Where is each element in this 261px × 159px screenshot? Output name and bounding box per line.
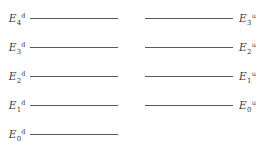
level-symbol: E [9,70,17,82]
level-label: E4d [9,13,25,24]
level-subscript: 0 [247,105,251,113]
level-superscript: d [21,127,25,135]
level-label: E1u [239,71,255,82]
level-subscript: 3 [247,18,251,26]
level-symbol: E [9,41,17,53]
level-superscript: u [252,69,256,77]
level-superscript: u [252,40,256,48]
level-line [30,105,118,106]
level-label: E2u [239,42,255,53]
energy-level-diagram: E4dE3dE2dE1dE0d E3uE2uE1uE0u [0,0,261,159]
level-subscript: 4 [17,18,21,26]
level-subscript: 1 [247,76,251,84]
level-superscript: u [252,11,256,19]
level-line [30,18,118,19]
level-subscript: 1 [17,105,21,113]
level-label: E3d [9,42,25,53]
level-symbol: E [239,12,247,24]
level-superscript: d [21,40,25,48]
level-label: E0d [9,129,25,140]
level-line [30,134,118,135]
level-line [30,47,118,48]
level-subscript: 0 [17,134,21,142]
level-superscript: d [21,11,25,19]
level-symbol: E [239,41,247,53]
level-symbol: E [239,99,247,111]
level-subscript: 2 [247,47,251,55]
level-superscript: d [21,69,25,77]
level-label: E3u [239,13,255,24]
level-label: E0u [239,100,255,111]
level-symbol: E [9,128,17,140]
level-symbol: E [9,12,17,24]
level-line [145,105,233,106]
level-label: E1d [9,100,25,111]
level-subscript: 2 [17,76,21,84]
level-symbol: E [239,70,247,82]
level-line [145,18,233,19]
level-line [30,76,118,77]
level-symbol: E [9,99,17,111]
level-line [145,47,233,48]
level-line [145,76,233,77]
level-label: E2d [9,71,25,82]
level-subscript: 3 [17,47,21,55]
level-superscript: u [252,98,256,106]
level-superscript: d [21,98,25,106]
